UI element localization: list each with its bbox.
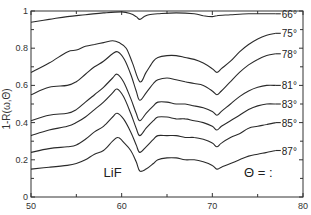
curve-87deg: [31, 137, 276, 171]
y-tick-label: 1: [23, 6, 28, 16]
curve-81deg: [31, 74, 276, 121]
theta-label: Θ = :: [244, 165, 273, 180]
x-tick-label: 50: [26, 201, 36, 211]
curve-75deg: [31, 33, 276, 82]
x-tick-label: 70: [207, 201, 217, 211]
y-tick-label: 0.8: [15, 43, 28, 53]
series-label: 85°: [282, 118, 297, 129]
curve-78deg: [31, 52, 276, 101]
curve-66deg: [31, 12, 276, 22]
series-label: 83°: [282, 99, 297, 110]
x-tick-label: 60: [117, 201, 127, 211]
y-tick-label: 0.4: [15, 118, 28, 128]
series-label: 66°: [282, 9, 297, 20]
curves: [31, 12, 281, 172]
curve-83deg: [31, 89, 276, 136]
series-label: 75°: [282, 28, 297, 39]
y-tick-label: 0.2: [15, 155, 28, 165]
y-axis-title: 1-R(ω,Θ): [1, 88, 12, 129]
series-label: 87°: [282, 146, 297, 157]
series-label: 81°: [282, 80, 297, 91]
sample-label: LiF: [104, 165, 122, 180]
curve-85deg: [31, 113, 276, 152]
x-tick-label: 80: [298, 201, 308, 211]
series-label: 78°: [282, 49, 297, 60]
y-tick-label: 0.6: [15, 80, 28, 90]
reflectivity-chart: 00.20.40.60.81506070801-R(ω,Θ) 66°75°78°…: [0, 0, 311, 215]
